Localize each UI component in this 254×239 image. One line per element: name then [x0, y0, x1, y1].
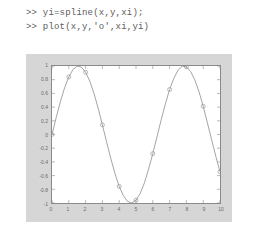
x-tick-label: 6: [152, 206, 155, 212]
y-tick-label: 0: [26, 132, 48, 138]
spline-curve: [52, 66, 220, 203]
x-tick-label: 7: [169, 206, 172, 212]
x-tick-label: 10: [218, 206, 224, 212]
y-tick-label: -0.4: [26, 159, 48, 165]
y-tick-label: -0.2: [26, 145, 48, 151]
x-tick-label: 0: [50, 206, 53, 212]
data-point-markers: [52, 66, 220, 202]
x-tick-label: 2: [84, 206, 87, 212]
command-line-2: >> plot(x,y,'o',xi,yi): [26, 20, 236, 34]
y-tick-label: 0.2: [26, 118, 48, 124]
y-tick-label: -0.6: [26, 173, 48, 179]
x-tick-label: 9: [203, 206, 206, 212]
x-tick-label: 3: [101, 206, 104, 212]
y-tick-label: 0.4: [26, 104, 48, 110]
plot-canvas: [52, 66, 220, 203]
y-tick-label: -1: [26, 201, 48, 207]
command-line-1: >> yi=spline(x,y,xi);: [26, 6, 236, 20]
x-tick-label: 5: [135, 206, 138, 212]
figure-panel: -1-0.8-0.6-0.4-0.200.20.40.60.81 0123456…: [26, 54, 232, 222]
axis-ticks: [52, 66, 220, 203]
matlab-command-transcript: >> yi=spline(x,y,xi); >> plot(x,y,'o',xi…: [26, 6, 236, 34]
x-tick-label: 8: [186, 206, 189, 212]
x-tick-label: 1: [67, 206, 70, 212]
plot-axes: [51, 65, 221, 204]
y-tick-label: -0.8: [26, 187, 48, 193]
y-tick-label: 0.6: [26, 90, 48, 96]
x-tick-label: 4: [118, 206, 121, 212]
y-tick-label: 0.8: [26, 76, 48, 82]
y-tick-label: 1: [26, 62, 48, 68]
